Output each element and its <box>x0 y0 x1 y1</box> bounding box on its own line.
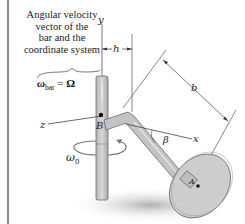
z-axis-label: z <box>39 119 46 130</box>
h-arrowhead-right <box>127 48 132 51</box>
shaft-omega-subscript: 0 <box>75 158 79 166</box>
h-dimension-label: h <box>113 43 119 54</box>
x-axis-label: x <box>193 133 199 144</box>
point-b-label: B <box>95 120 103 131</box>
shaft-rotation-arrow-right <box>108 141 126 155</box>
y-axis-label: y <box>97 14 104 25</box>
point-a-label: A <box>188 177 195 186</box>
shaft-omega-label: ω0 <box>66 151 79 166</box>
bar-highlight <box>134 122 176 172</box>
z-axis-line <box>48 116 102 124</box>
b-extension-top <box>123 50 166 108</box>
point-b-dot <box>99 113 103 117</box>
point-a-dot <box>196 184 200 188</box>
beta-angle-label: β <box>162 134 169 145</box>
shaft-rotation-arrow-left <box>74 141 96 155</box>
h-arrowhead-left <box>102 48 107 51</box>
mechanism-drawing: y h b z B x β A ω0 <box>0 0 245 224</box>
caption-brace <box>37 68 100 78</box>
diagram-frame: Angular velocity vector of the bar and t… <box>0 0 245 224</box>
b-extension-bottom <box>210 110 236 157</box>
shaft-omega-symbol: ω <box>66 151 75 164</box>
b-dimension-label: b <box>191 82 197 93</box>
